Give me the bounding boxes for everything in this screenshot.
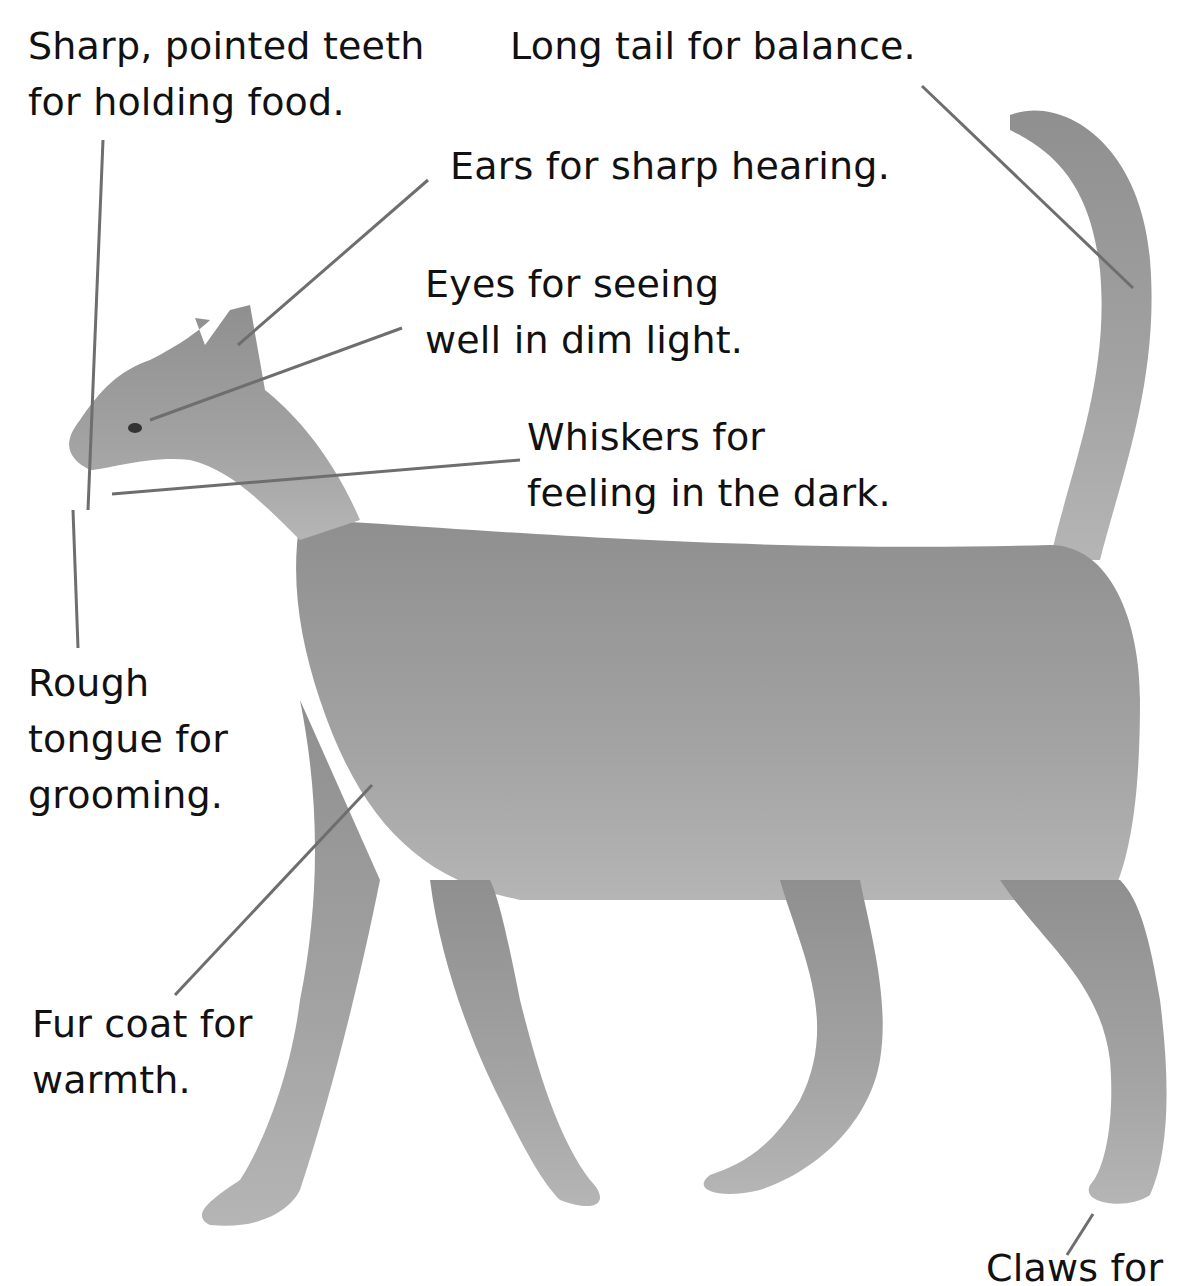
label-eyes-line-2: well in dim light. xyxy=(425,312,743,368)
label-tongue-line-1: Rough xyxy=(28,655,228,711)
label-teeth-line-1: Sharp, pointed teeth xyxy=(28,18,425,74)
label-ears-line-1: Ears for sharp hearing. xyxy=(450,138,890,194)
label-claws: Claws for xyxy=(986,1240,1163,1286)
label-tail-line-1: Long tail for balance. xyxy=(510,18,916,74)
cat-eye-icon xyxy=(128,423,142,433)
label-whiskers-line-1: Whiskers for xyxy=(527,409,891,465)
label-tongue-line-3: grooming. xyxy=(28,767,228,823)
label-teeth: Sharp, pointed teeth for holding food. xyxy=(28,18,425,130)
label-whiskers-line-2: feeling in the dark. xyxy=(527,465,891,521)
label-whiskers: Whiskers for feeling in the dark. xyxy=(527,409,891,521)
label-eyes-line-1: Eyes for seeing xyxy=(425,256,743,312)
label-eyes: Eyes for seeing well in dim light. xyxy=(425,256,743,368)
label-ears: Ears for sharp hearing. xyxy=(450,138,890,194)
label-tail: Long tail for balance. xyxy=(510,18,916,74)
label-fur-line-2: warmth. xyxy=(32,1052,253,1108)
label-tongue-line-2: tongue for xyxy=(28,711,228,767)
label-teeth-line-2: for holding food. xyxy=(28,74,425,130)
tongue-leader-line xyxy=(73,510,78,648)
label-fur-line-1: Fur coat for xyxy=(32,996,253,1052)
ears-leader-line xyxy=(238,180,428,345)
label-tongue: Rough tongue for grooming. xyxy=(28,655,228,823)
label-claws-line-1: Claws for xyxy=(986,1240,1163,1286)
label-fur: Fur coat for warmth. xyxy=(32,996,253,1108)
